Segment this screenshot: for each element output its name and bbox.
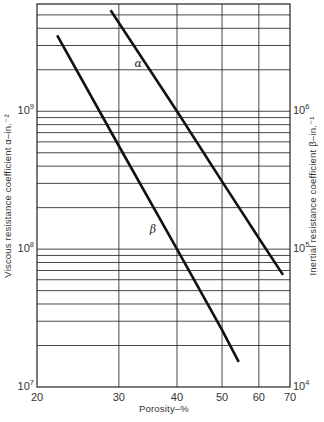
- x-tick-label: 40: [171, 391, 183, 403]
- x-tick-label: 20: [31, 391, 43, 403]
- left-y-axis-label: Viscous resistance coefficient α–in.⁻²: [2, 114, 13, 277]
- x-tick-label: 60: [253, 391, 265, 403]
- y-tick-label: 108: [18, 240, 34, 254]
- x-tick-label: 70: [284, 391, 296, 403]
- series-line-alpha: [111, 10, 283, 275]
- x-tick-label: 30: [113, 391, 125, 403]
- y-tick-label: 106: [293, 102, 309, 116]
- data-series: αβ: [57, 10, 283, 362]
- series-label-beta: β: [149, 223, 156, 236]
- right-y-axis-label: Inertial resistance coefficient β–in.⁻¹: [307, 116, 318, 275]
- series-line-beta: [57, 35, 239, 362]
- series-label-alpha: α: [134, 57, 142, 70]
- y-tick-label: 104: [293, 378, 309, 392]
- plot-frame: [37, 4, 290, 387]
- y-tick-label: 107: [18, 378, 34, 392]
- x-axis-label: Porosity–%: [139, 403, 189, 414]
- x-axis-ticks: 203040506070: [31, 391, 296, 403]
- x-tick-label: 50: [216, 391, 228, 403]
- y-tick-label: 109: [18, 102, 34, 116]
- gridlines: [37, 4, 290, 387]
- left-y-axis-ticks: 107108109: [18, 102, 34, 392]
- chart: αβ 203040506070 107108109 104105106 Poro…: [0, 0, 324, 422]
